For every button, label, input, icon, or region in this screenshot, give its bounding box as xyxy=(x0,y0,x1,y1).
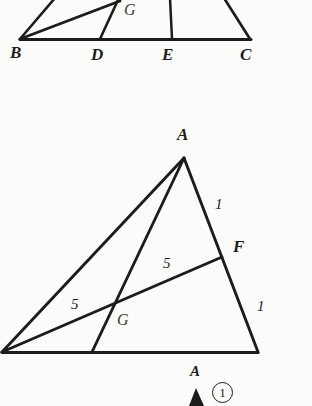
main-side-AC xyxy=(184,158,258,352)
main-label-F: F xyxy=(233,238,244,255)
main-length-label-FC: 1 xyxy=(257,299,265,314)
scanned-geometry-page: B D E C G A F G 1 1 5 5 A 1 xyxy=(0,0,312,406)
main-label-A: A xyxy=(177,126,188,143)
main-label-G: G xyxy=(117,312,129,328)
main-length-label-BG: 5 xyxy=(71,297,79,312)
top-label-B: B xyxy=(10,44,21,61)
top-label-E: E xyxy=(162,46,173,63)
top-label-C: C xyxy=(240,46,251,63)
main-cevian-B-to-F xyxy=(2,257,222,352)
top-label-G: G xyxy=(124,2,136,18)
bottom-solid-apex xyxy=(189,388,204,406)
top-vertical-from-E xyxy=(170,0,172,39)
main-side-AB xyxy=(2,158,184,352)
diagram-strokes xyxy=(0,0,312,406)
main-length-label-GF: 5 xyxy=(163,256,171,271)
bottom-label-A: A xyxy=(190,364,200,379)
main-length-label-AF: 1 xyxy=(215,197,223,212)
top-label-D: D xyxy=(91,46,103,63)
top-right-side-from-C xyxy=(224,0,250,39)
bottom-circled-marker: 1 xyxy=(212,382,233,403)
